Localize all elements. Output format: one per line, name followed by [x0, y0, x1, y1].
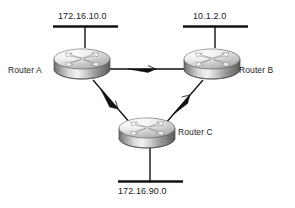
link-a-b	[110, 66, 190, 73]
router-icon-c[interactable]	[119, 118, 175, 148]
router-icon-a[interactable]	[54, 49, 110, 79]
lan-segment-top-left	[53, 27, 118, 49]
topology-canvas	[0, 0, 295, 208]
arrow-icon	[101, 89, 119, 109]
router-label-a: Router A	[8, 65, 42, 75]
lan-segment-bottom	[118, 144, 183, 182]
link-c-b	[165, 80, 203, 124]
router-label-b: Router B	[239, 65, 273, 75]
arrow-icon	[173, 95, 191, 115]
network-label-bottom: 172.16.90.0	[118, 186, 167, 196]
lan-segment-top-right	[183, 27, 248, 49]
network-label-top-left: 172.16.10.0	[58, 11, 107, 21]
link-a-c	[93, 80, 131, 124]
router-label-c: Router C	[178, 127, 213, 137]
router-icon-b[interactable]	[184, 49, 240, 79]
network-diagram: 172.16.10.0 10.1.2.0 172.16.90.0 Router …	[0, 0, 295, 208]
arrow-icon	[128, 66, 156, 73]
network-label-top-right: 10.1.2.0	[193, 11, 226, 21]
